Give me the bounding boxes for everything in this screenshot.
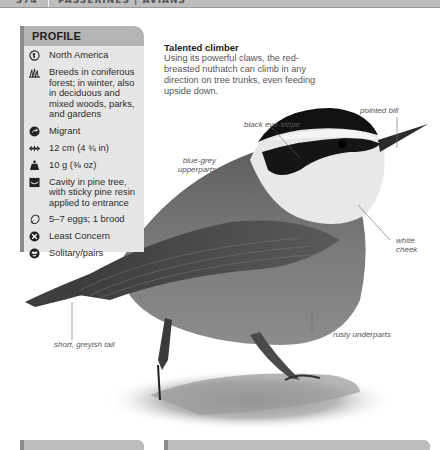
profile-item-length: 12 cm (4 ¾ in): [28, 143, 144, 154]
profile-item-text: North America: [49, 50, 108, 61]
social-behaviour-icon: [28, 248, 40, 259]
profile-item-social: Solitary/pairs: [28, 248, 144, 259]
egg-icon: [28, 214, 40, 225]
profile-item-text: Least Concern: [49, 231, 110, 242]
profile-item-range: North America: [28, 50, 144, 61]
length-arrows-icon: [28, 143, 40, 154]
label-black-eye-stripe: black eye-stripe: [244, 120, 300, 129]
label-short-tail: short, greyish tail: [54, 340, 114, 349]
profile-item-eggs: 5–7 eggs; 1 brood: [28, 214, 144, 225]
profile-item-text: Migrant: [49, 126, 80, 137]
profile-item-text: 5–7 eggs; 1 brood: [49, 214, 125, 225]
profile-item-migration: Migrant: [28, 126, 144, 137]
profile-item-nest: Cavity in pine tree, with sticky pine re…: [28, 177, 144, 209]
label-line-2: upperparts: [166, 165, 216, 174]
profile-item-habitat: Breeds in coniferous forest; in winter, …: [28, 67, 144, 120]
label-rusty-underparts: rusty underparts: [333, 330, 391, 339]
profile-item-weight: 10 g (⅜ oz): [28, 160, 144, 171]
label-pointed-bill: pointed bill: [360, 106, 398, 115]
next-box-left-header: [20, 440, 144, 450]
habitat-grass-icon: [28, 67, 40, 78]
migration-arrow-icon: [28, 126, 40, 137]
profile-item-text: Solitary/pairs: [49, 248, 103, 259]
label-white-cheek: white cheek: [396, 236, 417, 254]
label-line-2: cheek: [396, 245, 417, 254]
profile-header: PROFILE: [24, 26, 144, 46]
profile-item-text: 12 cm (4 ¾ in): [49, 143, 109, 154]
photo-caption: Talented climber Using its powerful claw…: [164, 42, 324, 97]
profile-item-text: Cavity in pine tree, with sticky pine re…: [49, 177, 144, 209]
profile-box: PROFILE North America Breeds in conifero…: [20, 26, 144, 252]
label-line-1: blue-grey: [166, 156, 216, 165]
conservation-status-icon: [28, 231, 40, 242]
label-blue-grey-upperparts: blue-grey upperparts: [166, 156, 216, 174]
next-box-right-header: [164, 440, 430, 450]
nest-icon: [28, 177, 40, 188]
globe-icon: [28, 50, 40, 61]
weight-icon: [28, 160, 40, 171]
profile-item-text: 10 g (⅜ oz): [49, 160, 96, 171]
profile-title: PROFILE: [32, 30, 81, 42]
caption-body: Using its powerful claws, the red-breast…: [164, 53, 324, 97]
label-line-1: white: [396, 236, 417, 245]
profile-item-status: Least Concern: [28, 231, 144, 242]
profile-list: North America Breeds in coniferous fores…: [24, 46, 144, 259]
profile-item-text: Breeds in coniferous forest; in winter, …: [49, 67, 144, 120]
caption-title: Talented climber: [164, 42, 324, 53]
